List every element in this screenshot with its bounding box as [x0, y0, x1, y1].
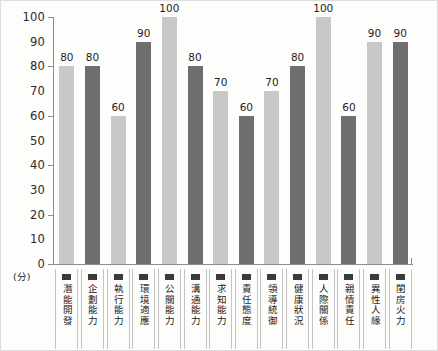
bar: [393, 42, 408, 264]
bar-group: 80: [85, 17, 100, 264]
category-label-text: 親情責任: [344, 284, 354, 326]
bar-value-label: 80: [291, 51, 304, 63]
bar: [290, 66, 305, 264]
bar-value-label: 100: [159, 2, 179, 14]
y-axis-tick: [48, 17, 53, 18]
category-label-text: 責任態度: [241, 284, 251, 326]
bar-series: 808060901008070607080100609090: [54, 17, 413, 264]
category-label-cell: 溝通能力: [184, 269, 207, 349]
bar: [162, 17, 177, 264]
category-label-text: 閨房火力: [395, 284, 405, 326]
bar-value-label: 80: [60, 51, 73, 63]
bar: [316, 17, 331, 264]
y-axis-tick: [48, 66, 53, 67]
y-axis-tick: [48, 165, 53, 166]
category-label-text: 異性人緣: [370, 284, 380, 326]
y-axis-tick-label: 10: [30, 232, 45, 246]
category-label-cell: 領導統御: [260, 269, 283, 349]
y-axis-tick: [48, 264, 53, 265]
bar: [188, 66, 203, 264]
category-label-cell: 健康狀況: [286, 269, 309, 349]
legend-square-icon: [216, 274, 225, 280]
bar: [85, 66, 100, 264]
bar-value-label: 90: [368, 27, 381, 39]
legend-square-icon: [267, 274, 276, 280]
y-axis-tick: [48, 215, 53, 216]
bar-group: 100: [316, 17, 331, 264]
bar-group: 80: [188, 17, 203, 264]
category-label-text: 求知能力: [216, 284, 226, 326]
legend-square-icon: [293, 274, 302, 280]
bar-group: 70: [213, 17, 228, 264]
bar-value-label: 80: [188, 51, 201, 63]
category-label-text: 潛能開發: [62, 284, 72, 326]
legend-square-icon: [242, 274, 251, 280]
bar: [367, 42, 382, 264]
bar-group: 80: [59, 17, 74, 264]
bar-value-label: 90: [137, 27, 150, 39]
bar-value-label: 60: [342, 101, 355, 113]
bar-group: 80: [290, 17, 305, 264]
bar: [136, 42, 151, 264]
y-axis-tick-label: 30: [30, 183, 45, 197]
category-label-cell: 執行能力: [107, 269, 130, 349]
plot-area: 0102030405060708090100 80806090100807060…: [53, 17, 413, 265]
legend-square-icon: [139, 274, 148, 280]
bar-value-label: 70: [265, 76, 278, 88]
y-axis-tick: [48, 116, 53, 117]
y-axis-tick-label: 90: [30, 35, 45, 49]
category-label-text: 人際關係: [318, 284, 328, 326]
category-label-text: 領導統御: [267, 284, 277, 326]
x-axis-line: [53, 264, 413, 265]
category-label-text: 環境適應: [139, 284, 149, 326]
bar-group: 60: [239, 17, 254, 264]
legend-square-icon: [114, 274, 123, 280]
bar-group: 60: [341, 17, 356, 264]
bar-group: 90: [367, 17, 382, 264]
chart-page: 0102030405060708090100 80806090100807060…: [0, 0, 438, 351]
y-axis-tick-label: 60: [30, 109, 45, 123]
bar: [111, 116, 126, 264]
bar-group: 90: [136, 17, 151, 264]
bar-value-label: 90: [393, 27, 406, 39]
y-axis-unit-label: (分): [13, 269, 30, 283]
bar-value-label: 60: [240, 101, 253, 113]
y-axis-tick-label: 40: [30, 158, 45, 172]
bar-value-label: 60: [111, 101, 124, 113]
category-label-cell: 責任態度: [235, 269, 258, 349]
category-label-cell: 潛能開發: [55, 269, 78, 349]
category-label-text: 健康狀況: [293, 284, 303, 326]
category-label-cell: 公關能力: [158, 269, 181, 349]
legend-square-icon: [319, 274, 328, 280]
category-label-cell: 求知能力: [209, 269, 232, 349]
bar-group: 90: [393, 17, 408, 264]
category-label-cell: 人際關係: [312, 269, 335, 349]
legend-square-icon: [191, 274, 200, 280]
category-label-text: 執行能力: [113, 284, 123, 326]
bar-value-label: 70: [214, 76, 227, 88]
category-label-cell: 環境適應: [132, 269, 155, 349]
bar: [264, 91, 279, 264]
category-label-cell: 親情責任: [337, 269, 360, 349]
y-axis-tick-label: 80: [30, 59, 45, 73]
legend-square-icon: [396, 274, 405, 280]
y-axis-tick-label: 50: [30, 134, 45, 148]
category-label-cell: 閨房火力: [389, 269, 412, 349]
bar-value-label: 80: [86, 51, 99, 63]
y-axis-tick-label: 70: [30, 84, 45, 98]
category-label-text: 溝通能力: [190, 284, 200, 326]
bar: [213, 91, 228, 264]
category-label-cell: 異性人緣: [363, 269, 386, 349]
legend-square-icon: [344, 274, 353, 280]
bar-group: 70: [264, 17, 279, 264]
y-axis-tick-label: 100: [22, 10, 45, 24]
bar-value-label: 100: [313, 2, 333, 14]
legend-square-icon: [370, 274, 379, 280]
bar: [59, 66, 74, 264]
category-label-text: 公關能力: [164, 284, 174, 326]
bar-group: 60: [111, 17, 126, 264]
y-axis-tick-label: 20: [30, 208, 45, 222]
category-label-strip: 潛能開發企劃能力執行能力環境適應公關能力溝通能力求知能力責任態度領導統御健康狀況…: [54, 269, 413, 349]
legend-square-icon: [88, 274, 97, 280]
category-label-cell: 企劃能力: [81, 269, 104, 349]
